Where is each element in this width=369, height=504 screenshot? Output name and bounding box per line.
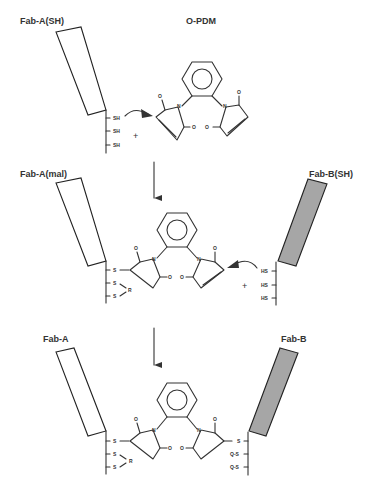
r-group-label: R — [129, 458, 133, 464]
nitrogen-label: N — [152, 427, 156, 433]
oxygen-label: O — [213, 416, 217, 422]
thiol-label: SH — [113, 115, 120, 121]
fab-a-sh-label: Fab-A(SH) — [20, 16, 64, 26]
step-2: Fab-A(mal) Fab-B(SH) S S S R O O — [20, 169, 353, 305]
fab-a-fragment — [56, 27, 106, 115]
thioether-label: Q-S — [230, 464, 240, 470]
thioether-label: Q-S — [230, 451, 240, 457]
nitrogen-label: N — [197, 427, 201, 433]
thiol-label: HS — [261, 282, 269, 288]
fab-a-label: Fab-A — [43, 334, 69, 344]
step-3: Fab-A Fab-B S S S R O O O — [43, 334, 307, 475]
nitrogen-label: N — [152, 256, 156, 262]
fab-b-sh-label: Fab-B(SH) — [309, 169, 353, 179]
thiol-label: SH — [113, 128, 120, 134]
oxygen-label: O — [180, 445, 184, 451]
oxygen-label: O — [134, 245, 138, 251]
oxygen-label: O — [213, 245, 217, 251]
o-pdm-bridge: O O O O N N — [130, 383, 232, 459]
nitrogen-label: N — [177, 103, 181, 109]
o-pdm-molecule: O O O O N N — [156, 62, 248, 140]
nitrogen-label: N — [223, 103, 227, 109]
fab-a-mal-label: Fab-A(mal) — [20, 169, 67, 179]
fab-a-fragment — [56, 178, 106, 266]
oxygen-label: O — [205, 124, 209, 130]
oxygen-label: O — [168, 445, 172, 451]
thiol-label: HS — [261, 295, 269, 301]
o-pdm-label: O-PDM — [186, 16, 216, 26]
nitrogen-label: N — [197, 256, 201, 262]
fab-b-fragment — [278, 179, 327, 266]
oxygen-label: O — [180, 274, 184, 280]
o-pdm-bridge: O O O O N N — [130, 213, 224, 288]
sulfur-label: S — [113, 451, 117, 457]
oxygen-label: O — [134, 416, 138, 422]
oxygen-label: O — [237, 89, 241, 95]
fab-b-fragment — [249, 348, 298, 436]
fab-a-fragment — [56, 348, 106, 436]
oxygen-label: O — [168, 274, 172, 280]
sulfur-label: S — [113, 464, 117, 470]
plus-sign: + — [133, 131, 138, 141]
sulfur-label: S — [113, 280, 117, 286]
sulfur-label: S — [237, 438, 241, 444]
oxygen-label: O — [192, 124, 196, 130]
plus-sign: + — [242, 281, 247, 291]
oxygen-label: O — [158, 93, 162, 99]
sulfur-label: S — [113, 267, 117, 273]
thiol-label: SH — [113, 142, 120, 148]
step-1: Fab-A(SH) O-PDM SH SH SH + — [20, 16, 248, 153]
sulfur-label: S — [113, 438, 117, 444]
fab-b-label: Fab-B — [281, 334, 307, 344]
reaction-diagram: Fab-A(SH) O-PDM SH SH SH + — [0, 0, 369, 504]
sulfur-label: S — [113, 293, 117, 299]
thiol-label: HS — [261, 268, 269, 274]
r-group-label: R — [128, 287, 132, 293]
